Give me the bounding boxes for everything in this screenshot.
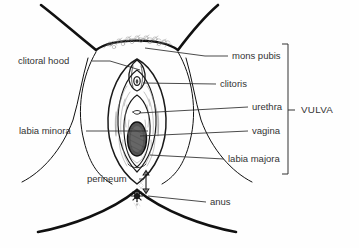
anatomy-diagram-page: clitoral hood labia minora perineum mons… — [0, 0, 359, 248]
vulva-bracket — [282, 44, 295, 174]
label-vagina: vagina — [252, 125, 281, 136]
labels-group: clitoral hood labia minora perineum mons… — [18, 50, 333, 207]
label-vulva-bracket: VULVA — [301, 104, 333, 115]
leader-vagina — [140, 131, 248, 136]
clitoral-hood-fold-right — [141, 66, 143, 87]
vulva-bracket-shape — [282, 44, 288, 174]
label-labia-minora: labia minora — [19, 125, 71, 136]
leader-anus — [148, 196, 206, 202]
label-labia-majora: labia majora — [228, 153, 280, 164]
label-mons-pubis: mons pubis — [232, 50, 281, 61]
left-thigh-upper-outline — [41, 5, 96, 50]
label-anus: anus — [210, 196, 231, 207]
leader-clitoris — [143, 83, 216, 84]
urethral-opening — [133, 111, 141, 115]
left-outer-thigh-line — [22, 58, 88, 182]
label-urethra: urethra — [252, 101, 283, 112]
leader-labia-majora — [150, 155, 224, 159]
leader-mons-pubis — [145, 48, 228, 56]
vulva-anatomy-group — [108, 59, 166, 184]
right-thigh-upper-outline — [178, 5, 218, 50]
label-clitoris: clitoris — [220, 78, 247, 89]
vulva-anatomy-illustration: clitoral hood labia minora perineum mons… — [0, 0, 359, 248]
left-buttock-curve — [38, 190, 137, 232]
label-perineum: perineum — [87, 173, 127, 184]
vaginal-opening-inner-shade — [131, 126, 144, 152]
clitoral-hood-fold-left — [132, 66, 134, 87]
label-clitoral-hood: clitoral hood — [18, 55, 69, 66]
clitoris-glans-center — [136, 79, 139, 83]
